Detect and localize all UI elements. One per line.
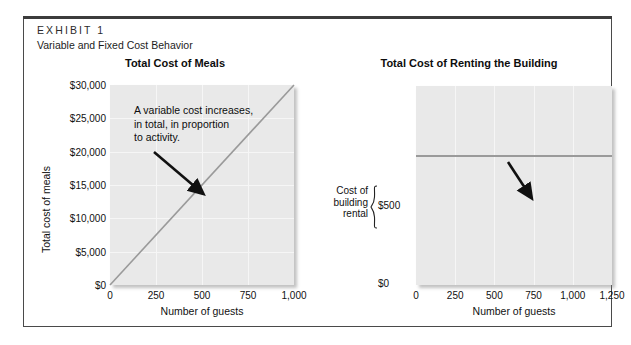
- x-tick-label: 0: [413, 290, 419, 301]
- y-tick-label: $5,000: [75, 246, 106, 257]
- y-tick-label: $20,000: [70, 146, 106, 157]
- exhibit-label: EXHIBIT 1: [37, 24, 193, 37]
- y-tick-label-zero-right: $0: [378, 278, 389, 289]
- y-tick-label: $0: [95, 280, 106, 291]
- y-axis-title-left: Total cost of meals: [40, 166, 52, 253]
- chart-title-left: Total Cost of Meals: [30, 57, 320, 69]
- x-axis-ticks-left: 0 250 500 750 1,000: [110, 290, 294, 304]
- x-tick-label: 1,000: [281, 290, 306, 301]
- y-tick-label: $30,000: [70, 80, 106, 91]
- x-tick-label: 250: [148, 290, 165, 301]
- cost-of-building-rental-callout: Cost of building rental $500: [322, 185, 416, 229]
- y-tick-label-500: $500: [378, 200, 400, 211]
- x-tick-label: 500: [486, 290, 503, 301]
- annotation-arrow-left-icon: [152, 150, 212, 200]
- x-tick-label: 1,250: [599, 290, 624, 301]
- annotation-arrow-right-icon: [505, 160, 545, 202]
- x-tick-label: 500: [194, 290, 211, 301]
- x-axis-title-right: Number of guests: [416, 305, 612, 317]
- exhibit-frame: EXHIBIT 1 Variable and Fixed Cost Behavi…: [23, 16, 612, 327]
- exhibit-header: EXHIBIT 1 Variable and Fixed Cost Behavi…: [37, 24, 193, 52]
- x-tick-label: 0: [107, 290, 113, 301]
- x-axis-ticks-right: 0 250 500 750 1,000 1,250: [416, 290, 612, 304]
- x-axis-title-left: Number of guests: [110, 305, 294, 317]
- chart-title-right: Total Cost of Renting the Building: [324, 57, 614, 69]
- x-tick-label: 250: [447, 290, 464, 301]
- annotation-variable-cost: A variable cost increases, in total, in …: [134, 104, 253, 145]
- brace-label: Cost of building rental: [322, 185, 368, 220]
- chart-total-cost-of-renting-the-building: Total Cost of Renting the Building Cost …: [322, 57, 612, 319]
- x-tick-label: 1,000: [560, 290, 585, 301]
- y-tick-label: $15,000: [70, 180, 106, 191]
- y-tick-label: $10,000: [70, 213, 106, 224]
- x-tick-label: 750: [240, 290, 257, 301]
- exhibit-subtitle: Variable and Fixed Cost Behavior: [37, 38, 193, 52]
- y-tick-label: $25,000: [70, 113, 106, 124]
- chart-total-cost-of-meals: Total Cost of Meals $30,000 $25,000 $20,…: [30, 57, 320, 319]
- x-tick-label: 750: [525, 290, 542, 301]
